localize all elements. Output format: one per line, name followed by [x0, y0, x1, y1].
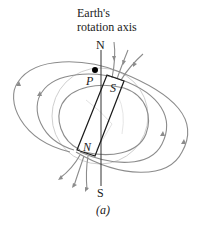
figure-caption: (a): [96, 204, 110, 216]
geographic-north-label: N: [96, 39, 105, 51]
geographic-south-label: S: [97, 187, 104, 199]
magnet-north-pole-label: N: [83, 141, 91, 153]
incoming-field-lines: [112, 42, 143, 80]
earth-circle: [52, 68, 148, 164]
axis-label-line1: Earth's: [77, 7, 110, 19]
earth-magnetic-field-diagram: Earth's rotation axis N P S N S (a): [0, 0, 198, 225]
outgoing-arrowheads: [58, 175, 89, 192]
axis-label-line2: rotation axis: [77, 21, 137, 33]
point-p-label: P: [86, 75, 93, 87]
magnet-south-pole-label: S: [110, 82, 116, 94]
point-p-dot: [92, 67, 98, 73]
